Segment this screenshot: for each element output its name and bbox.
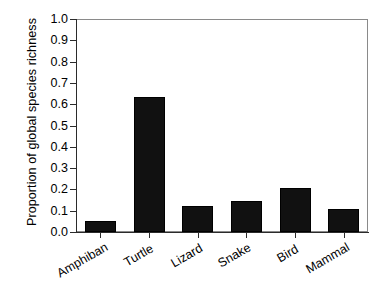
- y-tick-label-wrap: 0.9: [38, 40, 68, 41]
- y-tick-label: 0.3: [42, 162, 68, 175]
- x-tick-mark: [100, 233, 101, 238]
- x-tick-mark: [198, 233, 199, 238]
- y-tick-label: 0.8: [42, 56, 68, 69]
- y-tick-label: 0.6: [42, 98, 68, 111]
- x-axis-line: [76, 232, 369, 233]
- y-tick-mark: [70, 104, 76, 105]
- x-tick-label: Bird: [275, 243, 301, 265]
- plot-area: [76, 19, 368, 232]
- y-tick-label: 1.0: [42, 13, 68, 26]
- bar: [85, 221, 116, 232]
- x-tick-mark: [295, 233, 296, 238]
- y-tick-label: 0.4: [42, 141, 68, 154]
- y-tick-mark: [70, 232, 76, 233]
- y-tick-label-wrap: 0.5: [38, 126, 68, 127]
- y-tick-label: 0.9: [42, 34, 68, 47]
- x-tick-label: Mammal: [304, 241, 352, 276]
- y-tick-label: 0.5: [42, 120, 68, 133]
- y-tick-mark: [70, 19, 76, 20]
- bar: [280, 188, 311, 232]
- y-tick-label-wrap: 0.8: [38, 62, 68, 63]
- y-tick-mark: [70, 147, 76, 148]
- y-tick-mark: [70, 211, 76, 212]
- y-tick-label: 0.0: [42, 226, 68, 239]
- y-tick-label: 0.7: [42, 77, 68, 90]
- bar: [328, 209, 359, 232]
- x-tick-label: Turtle: [122, 242, 156, 269]
- x-tick-mark: [246, 233, 247, 238]
- bar: [231, 201, 262, 232]
- x-tick-label: Lizard: [169, 242, 205, 270]
- y-tick-mark: [70, 83, 76, 84]
- y-axis-line: [76, 19, 77, 233]
- x-tick-mark: [149, 233, 150, 238]
- y-tick-label-wrap: 0.1: [38, 211, 68, 212]
- y-tick-mark: [70, 62, 76, 63]
- y-tick-label-wrap: 0.7: [38, 83, 68, 84]
- y-tick-label: 0.1: [42, 205, 68, 218]
- bar: [134, 97, 165, 232]
- x-tick-mark: [344, 233, 345, 238]
- y-tick-mark: [70, 40, 76, 41]
- bar: [182, 206, 213, 232]
- x-tick-label: Snake: [216, 242, 253, 271]
- y-tick-label-wrap: 0.4: [38, 147, 68, 148]
- y-tick-label-wrap: 0.6: [38, 104, 68, 105]
- bar-chart: Proportion of global species richness 0.…: [0, 0, 387, 287]
- x-tick-label: Amphiban: [55, 240, 110, 279]
- y-tick-mark: [70, 189, 76, 190]
- y-tick-label-wrap: 0.0: [38, 232, 68, 233]
- y-tick-label-wrap: 1.0: [38, 19, 68, 20]
- y-tick-label-wrap: 0.2: [38, 189, 68, 190]
- y-tick-label: 0.2: [42, 183, 68, 196]
- y-tick-label-wrap: 0.3: [38, 168, 68, 169]
- y-tick-mark: [70, 168, 76, 169]
- y-tick-mark: [70, 126, 76, 127]
